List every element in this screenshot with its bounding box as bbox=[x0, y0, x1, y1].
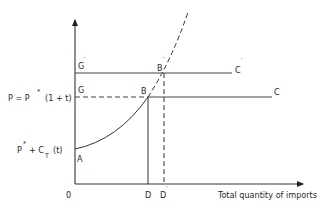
supply-curve-dashed bbox=[148, 12, 188, 97]
base-price-plus: + C bbox=[29, 145, 44, 155]
label-origin: 0 bbox=[66, 190, 71, 200]
label-g-prime-mark: ′ bbox=[84, 56, 86, 64]
label-c-prime: C bbox=[235, 65, 241, 75]
tariff-price-factor: (1 + t) bbox=[45, 93, 72, 103]
label-d: D bbox=[145, 190, 151, 200]
tariff-price-label: P = P bbox=[8, 93, 30, 103]
base-price-star: * bbox=[23, 140, 26, 148]
supply-curve-solid bbox=[75, 97, 148, 149]
base-price-t: (t) bbox=[53, 145, 63, 155]
base-price-label: P bbox=[17, 145, 22, 155]
label-a: A bbox=[77, 154, 83, 164]
label-c: C bbox=[274, 87, 280, 97]
label-d-prime-mark: ′ bbox=[166, 185, 168, 193]
tariff-price-star: * bbox=[37, 88, 40, 96]
label-b-prime-mark: ′ bbox=[163, 56, 165, 64]
label-b: B bbox=[141, 86, 147, 96]
label-c-prime-mark: ′ bbox=[241, 57, 243, 65]
base-price-sub: T bbox=[44, 152, 49, 160]
x-axis-label: Total quantity of imports bbox=[217, 190, 317, 200]
label-g: G bbox=[78, 85, 84, 95]
label-b-prime: B bbox=[157, 63, 163, 73]
trade-diagram: G ′ G B ′ B C ′ C A 0 D D ′ Total quanti… bbox=[0, 0, 335, 212]
